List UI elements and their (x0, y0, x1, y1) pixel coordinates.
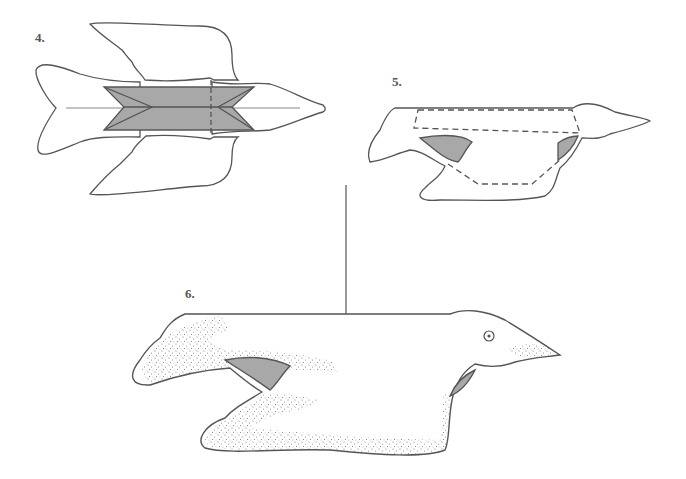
diagram-illustration (0, 0, 686, 479)
step-5-bird-sideview (369, 104, 650, 201)
folded-body-panel (104, 87, 254, 130)
lower-wing-outline (90, 135, 238, 195)
step-4-bird-topview (36, 23, 325, 195)
upper-wing-outline (90, 23, 238, 81)
bird-side-outline (369, 104, 650, 201)
step-6-finished-bird (133, 185, 560, 455)
diagram-canvas: 4. 5. 6. (0, 0, 686, 479)
